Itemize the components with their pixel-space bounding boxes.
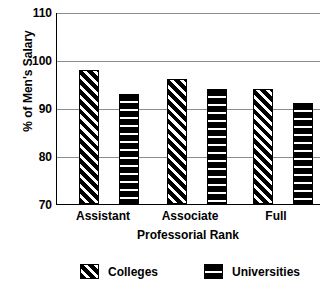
y-tick-label-70: 70: [16, 199, 52, 211]
plot-area: [56, 13, 320, 205]
gridline-110: [57, 13, 320, 14]
bar-colleges-associate: [167, 79, 187, 204]
legend-item-universities: Universities: [204, 264, 300, 279]
chart-figure: % of Men's Salary 110 100 90 80 70 Assis…: [0, 0, 334, 298]
bar-universities-assistant: [119, 94, 139, 204]
y-tick-label-90: 90: [16, 103, 52, 115]
bar-universities-associate: [207, 89, 227, 204]
legend-swatch-universities-icon: [204, 264, 223, 279]
legend-swatch-colleges-icon: [80, 264, 99, 279]
x-tick-label-full: Full: [221, 209, 331, 223]
y-axis-title: % of Men's Salary: [21, 1, 35, 161]
legend-item-colleges: Colleges: [80, 264, 158, 279]
y-tick-label-80: 80: [16, 151, 52, 163]
legend-label-colleges: Colleges: [108, 265, 158, 279]
x-axis-title: Professorial Rank: [56, 228, 320, 242]
bar-universities-full: [293, 103, 313, 204]
bar-colleges-assistant: [79, 70, 99, 204]
y-tick-label-100: 100: [16, 55, 52, 67]
gridline-100: [57, 61, 320, 62]
bar-colleges-full: [253, 89, 273, 204]
y-tick-label-110: 110: [16, 7, 52, 19]
legend-label-universities: Universities: [232, 265, 300, 279]
chart-legend: Colleges Universities: [56, 264, 324, 279]
